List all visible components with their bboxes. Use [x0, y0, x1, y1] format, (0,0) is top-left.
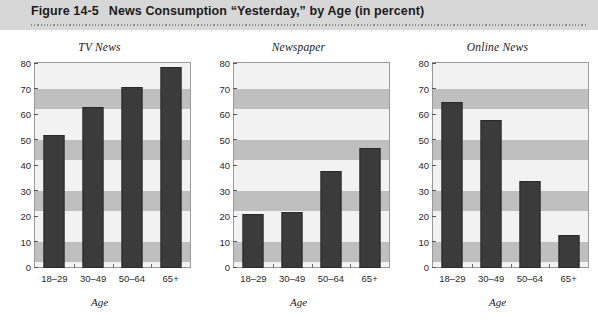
bar-slot: [472, 62, 511, 268]
x-axis-tick-label: 65+: [362, 273, 378, 284]
y-axis-tick-label: 10: [219, 236, 233, 247]
y-axis-tick: 40: [219, 160, 233, 171]
x-axis-title: Age: [199, 296, 398, 308]
x-axis-tick-label: 18–29: [439, 273, 465, 284]
y-axis-tick-label: 40: [418, 160, 432, 171]
y-axis-tick-label: 80: [418, 58, 432, 69]
bar-slot: [74, 62, 113, 268]
y-axis-tick: 40: [20, 160, 34, 171]
bars-layer: [233, 62, 390, 268]
x-axis: 18–2930–4950–6465+: [432, 268, 589, 294]
bar-slot: [350, 62, 389, 268]
x-axis-tick-mark: [151, 264, 152, 268]
charts-row: TV News 01020304050607080 18–2930–4950–6…: [0, 30, 598, 323]
y-axis-tick: 10: [20, 236, 34, 247]
bar-slot: [113, 62, 152, 268]
x-axis-tick-label: 30–49: [478, 273, 504, 284]
y-axis-tick-label: 30: [219, 185, 233, 196]
x-axis-tick-label: 30–49: [279, 273, 305, 284]
y-axis-tick: 60: [20, 109, 34, 120]
y-axis-tick: 20: [219, 211, 233, 222]
y-axis-tick-label: 70: [20, 83, 34, 94]
bar[interactable]: [442, 102, 463, 268]
y-axis-tick: 10: [219, 236, 233, 247]
y-axis-tick: 20: [418, 211, 432, 222]
bar-slot: [234, 62, 273, 268]
y-axis-tick-label: 10: [20, 236, 34, 247]
y-axis: 01020304050607080: [0, 62, 34, 268]
chart-title: Newspaper: [199, 41, 398, 53]
y-axis-tick-label: 30: [418, 185, 432, 196]
y-axis: 01020304050607080: [199, 62, 233, 268]
y-axis-tick-label: 40: [20, 160, 34, 171]
bar[interactable]: [481, 120, 502, 268]
bar[interactable]: [160, 67, 181, 268]
y-axis: 01020304050607080: [398, 62, 432, 268]
bar[interactable]: [558, 235, 579, 268]
y-axis-tick: 0: [424, 262, 432, 273]
y-axis-tick-label: 20: [418, 211, 432, 222]
x-axis: 18–2930–4950–6465+: [233, 268, 390, 294]
y-axis-tick-label: 50: [418, 134, 432, 145]
x-axis-tick-mark: [273, 264, 274, 268]
y-axis-tick-label: 80: [20, 58, 34, 69]
x-axis-tick-label: 18–29: [41, 273, 67, 284]
y-axis-tick: 70: [418, 83, 432, 94]
y-axis-tick: 30: [219, 185, 233, 196]
y-axis-tick-label: 60: [418, 109, 432, 120]
bar-slot: [35, 62, 74, 268]
y-axis-tick: 60: [418, 109, 432, 120]
y-axis-tick-label: 20: [219, 211, 233, 222]
y-axis-tick-label: 60: [20, 109, 34, 120]
y-axis-tick: 70: [20, 83, 34, 94]
y-axis-tick: 50: [418, 134, 432, 145]
x-axis-tick-label: 18–29: [240, 273, 266, 284]
y-axis-tick-label: 40: [219, 160, 233, 171]
y-axis-tick: 0: [225, 262, 233, 273]
x-axis-tick-label: 65+: [163, 273, 179, 284]
bar[interactable]: [121, 87, 142, 268]
x-axis-tick-label: 50–64: [318, 273, 344, 284]
bar[interactable]: [320, 171, 341, 268]
y-axis-tick-label: 70: [418, 83, 432, 94]
bar-slot: [151, 62, 190, 268]
y-axis-tick-label: 0: [26, 262, 34, 273]
y-axis-tick: 70: [219, 83, 233, 94]
figure-title: News Consumption “Yesterday,” by Age (in…: [109, 4, 424, 18]
chart-panel-newspaper: Newspaper 01020304050607080 18–2930–4950…: [199, 30, 398, 323]
x-axis-tick-label: 30–49: [80, 273, 106, 284]
y-axis-tick: 30: [418, 185, 432, 196]
x-axis-tick-mark: [472, 264, 473, 268]
bar-slot: [312, 62, 351, 268]
y-axis-tick: 0: [26, 262, 34, 273]
y-axis-tick-label: 0: [225, 262, 233, 273]
bar[interactable]: [519, 181, 540, 268]
bar-slot: [549, 62, 588, 268]
chart-panel-tv-news: TV News 01020304050607080 18–2930–4950–6…: [0, 30, 199, 323]
y-axis-tick-label: 0: [424, 262, 432, 273]
y-axis-tick: 50: [20, 134, 34, 145]
x-axis-tick-mark: [350, 264, 351, 268]
y-axis-tick-label: 50: [20, 134, 34, 145]
x-axis-tick-mark: [549, 264, 550, 268]
bar[interactable]: [83, 107, 104, 268]
y-axis-tick: 60: [219, 109, 233, 120]
y-axis-tick-label: 10: [418, 236, 432, 247]
x-axis-tick-mark: [511, 264, 512, 268]
bar-slot: [511, 62, 550, 268]
bar[interactable]: [44, 135, 65, 268]
bar-slot: [273, 62, 312, 268]
chart-title: TV News: [0, 41, 199, 53]
y-axis-tick: 80: [418, 58, 432, 69]
bar[interactable]: [243, 214, 264, 268]
y-axis-tick: 80: [219, 58, 233, 69]
bar[interactable]: [359, 148, 380, 268]
x-axis: 18–2930–4950–6465+: [34, 268, 191, 294]
bar[interactable]: [282, 212, 303, 268]
y-axis-tick: 80: [20, 58, 34, 69]
y-axis-tick: 50: [219, 134, 233, 145]
y-axis-tick: 40: [418, 160, 432, 171]
figure-header-text: Figure 14-5 News Consumption “Yesterday,…: [31, 4, 424, 18]
y-axis-tick: 10: [418, 236, 432, 247]
figure-number: Figure 14-5: [31, 4, 99, 18]
